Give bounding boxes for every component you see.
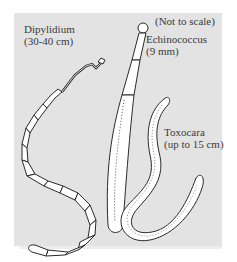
- toxocara-size: (up to 15 cm): [164, 138, 224, 150]
- scale-note: (Not to scale): [155, 15, 215, 27]
- toxocara-name: Toxocara: [164, 126, 224, 138]
- echinococcus-name: Echinococcus: [146, 33, 207, 45]
- dipylidium-name: Dipylidium: [24, 23, 75, 35]
- toxocara-illustration: [121, 97, 203, 240]
- echinococcus-size: (9 mm): [146, 45, 207, 57]
- toxocara-label: Toxocara (up to 15 cm): [164, 126, 224, 150]
- echinococcus-label: Echinococcus (9 mm): [146, 33, 207, 57]
- dipylidium-label: Dipylidium (30-40 cm): [24, 23, 75, 47]
- dipylidium-illustration: [22, 58, 105, 256]
- dipylidium-size: (30-40 cm): [24, 35, 75, 47]
